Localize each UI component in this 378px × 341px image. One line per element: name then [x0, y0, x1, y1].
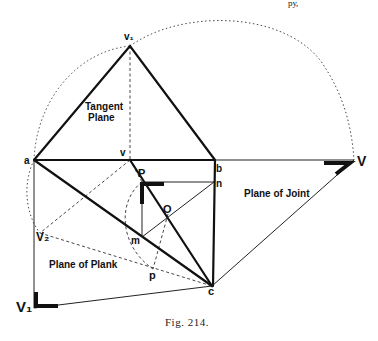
figure-caption: Fig. 214.	[165, 316, 209, 328]
label-tangent-plane-line2: Plane	[88, 112, 115, 123]
label-plane-of-plank: Plane of Plank	[49, 259, 118, 270]
label-O: O	[163, 203, 172, 215]
label-plane-of-joint: Plane of Joint	[244, 188, 310, 199]
line-V-c	[212, 160, 354, 286]
label-V1: V₁	[16, 298, 32, 315]
label-P: P	[138, 167, 145, 179]
figure-214-diagram: ру, v₁ a v b V P n O m V₂ p c V₁ Tangent…	[0, 0, 378, 341]
label-v1: v₁	[124, 31, 134, 42]
label-m: m	[131, 235, 140, 246]
tangent-plane-outline	[34, 46, 215, 160]
arc-p-p-dashed	[125, 182, 153, 269]
label-c: c	[208, 285, 214, 297]
header-fragment-text: ру,	[288, 0, 298, 8]
label-a: a	[24, 155, 30, 166]
line-m-n	[142, 182, 214, 237]
label-V2: V₂	[36, 230, 49, 244]
label-tangent-plane-line1: Tangent	[85, 101, 124, 112]
right-angle-mark-V1	[36, 292, 58, 306]
label-V: V	[357, 153, 367, 169]
arc-a-v2-dotted	[27, 160, 40, 233]
right-angle-mark-V	[324, 163, 350, 174]
label-v: v	[120, 147, 126, 158]
line-b-c	[213, 160, 215, 286]
label-n: n	[216, 178, 222, 189]
label-b: b	[216, 163, 222, 174]
label-p: p	[149, 269, 156, 281]
line-V1-c	[34, 286, 212, 308]
